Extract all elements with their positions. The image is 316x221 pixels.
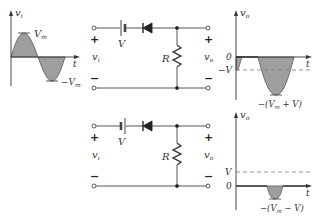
peak-label: Vm xyxy=(34,28,47,40)
circuit-bottom xyxy=(92,118,210,188)
minus-right: − xyxy=(204,72,213,85)
plus-left: + xyxy=(90,131,99,144)
junction-dot xyxy=(175,26,178,29)
output-graph-top: vo 0 −V t −(Vm + V) xyxy=(218,7,312,110)
junction-dot xyxy=(175,124,178,127)
terminal-in-bottom xyxy=(92,86,96,90)
output-graph-bottom: vo V 0 t −(Vm − V) xyxy=(225,109,312,214)
terminal-in-top xyxy=(92,124,96,128)
resistor-zigzag-icon xyxy=(173,45,181,67)
terminal-out-top xyxy=(206,26,210,30)
input-y-arrow-icon xyxy=(9,10,13,16)
plus-left: + xyxy=(90,33,99,46)
vout-label: vo xyxy=(204,51,214,63)
output-y-label: vo xyxy=(240,109,250,121)
resistor-zigzag-icon xyxy=(173,143,181,165)
plus-right: + xyxy=(204,33,213,46)
output-y-label: vo xyxy=(240,7,250,19)
vout-label: vo xyxy=(204,149,214,161)
terminal-out-bottom xyxy=(206,184,210,188)
vin-label: vi xyxy=(92,149,100,161)
junction-dot xyxy=(175,86,178,89)
output-y-arrow-icon xyxy=(234,112,238,118)
trough-label: −Vm xyxy=(61,77,81,88)
output-negative-lobe xyxy=(267,186,283,199)
min-label: −(Vm − V) xyxy=(260,203,304,214)
output-t-label: t xyxy=(306,59,310,69)
battery-label: V xyxy=(118,136,127,147)
vin-label: vi xyxy=(92,51,100,63)
output-t-label: t xyxy=(306,188,310,198)
circuit-top xyxy=(92,20,210,90)
input-y-label: vi xyxy=(15,7,23,19)
diode-triangle-icon xyxy=(143,23,152,33)
min-label: −(Vm + V) xyxy=(258,99,302,110)
terminal-in-bottom xyxy=(92,184,96,188)
resistor-label: R xyxy=(161,53,170,64)
minus-left: − xyxy=(90,170,99,183)
zero-label: 0 xyxy=(226,52,232,62)
terminal-in-top xyxy=(92,26,96,30)
junction-dot xyxy=(175,184,178,187)
resistor-label: R xyxy=(161,151,170,162)
clipper-diagram: vi Vm t −Vm + − + − V R xyxy=(0,0,316,221)
level-label: V xyxy=(225,167,233,177)
minus-right: − xyxy=(204,170,213,183)
battery-label: V xyxy=(118,38,127,49)
plus-right: + xyxy=(204,131,213,144)
input-t-label: t xyxy=(73,59,77,69)
output-tail-shade xyxy=(236,57,242,70)
terminal-out-bottom xyxy=(206,86,210,90)
level-label: −V xyxy=(218,65,234,75)
terminal-out-top xyxy=(206,124,210,128)
input-waveform-graph: vi Vm t −Vm xyxy=(9,7,81,88)
output-negative-lobe xyxy=(258,57,294,95)
diode-triangle-icon xyxy=(143,121,152,131)
output-y-arrow-icon xyxy=(234,10,238,16)
circuit-top-labels: + − + − V R vi vo xyxy=(90,33,214,85)
circuit-bottom-labels: + − + − V R vi vo xyxy=(90,131,214,183)
minus-left: − xyxy=(90,72,99,85)
zero-label: 0 xyxy=(226,181,232,191)
